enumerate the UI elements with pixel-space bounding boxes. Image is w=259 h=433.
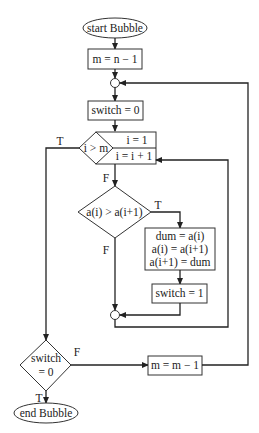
junction-inner-loop	[111, 311, 120, 320]
edge-loop-true	[46, 148, 79, 340]
loop-true-label: T	[56, 135, 63, 147]
switch-check-line-2: = 0	[38, 366, 53, 378]
reset-switch-label: switch = 0	[91, 104, 139, 116]
init-m-box: m = n − 1	[88, 49, 142, 69]
loop-false-label: F	[103, 172, 109, 184]
compare-false-label: F	[103, 244, 109, 256]
decrement-m-box: m = m − 1	[148, 356, 202, 375]
end-terminal: end Bubble	[14, 403, 78, 423]
edge-outer-loop-back	[120, 83, 248, 365]
swap-line-2: a(i) = a(i+1)	[152, 243, 209, 256]
loop-construct: i > m i = 1 i = i + 1	[79, 132, 156, 164]
set-switch-box: switch = 1	[152, 284, 207, 303]
set-switch-label: switch = 1	[155, 287, 203, 299]
compare-diamond: a(i) > a(i+1)	[78, 186, 151, 238]
edge-set-to-junction	[120, 303, 180, 315]
switch-true-label: T	[35, 392, 42, 404]
decrement-m-label: m = m − 1	[151, 359, 199, 371]
reset-switch-box: switch = 0	[88, 101, 143, 120]
start-label: start Bubble	[87, 22, 143, 34]
loop-init-label: i = 1	[126, 134, 147, 146]
loop-condition-label: i > m	[84, 142, 108, 154]
start-terminal: start Bubble	[83, 18, 147, 38]
edge-compare-true	[151, 212, 180, 228]
swap-box: dum = a(i) a(i) = a(i+1) a(i+1) = dum	[145, 228, 215, 270]
swap-line-3: a(i+1) = dum	[150, 256, 211, 269]
switch-check-line-1: switch	[31, 352, 61, 364]
end-label: end Bubble	[20, 407, 73, 419]
switch-false-label: F	[74, 346, 80, 358]
switch-check-diamond: switch = 0	[20, 340, 71, 391]
init-m-label: m = n − 1	[93, 53, 138, 65]
junction-outer-loop	[111, 79, 120, 88]
compare-true-label: T	[154, 199, 161, 211]
compare-label: a(i) > a(i+1)	[86, 206, 143, 219]
swap-line-1: dum = a(i)	[156, 230, 205, 243]
flowchart: start Bubble m = n − 1 switch = 0 i > m …	[0, 0, 259, 433]
loop-increment-label: i = i + 1	[116, 150, 153, 162]
